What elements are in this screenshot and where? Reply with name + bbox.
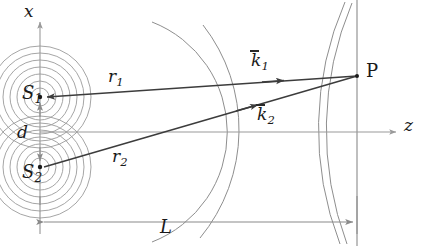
vector-overbar-icon: [256, 104, 265, 106]
ray-r1-label: r1: [108, 68, 124, 88]
vector-overbar-icon: [250, 50, 259, 52]
ray-r1: [47, 76, 357, 97]
x-axis-label: x: [24, 3, 34, 20]
distance-L-label: L: [160, 218, 172, 236]
wavevector-k2-arrow: [236, 105, 258, 111]
wavevector-k2-label: k2: [257, 106, 275, 126]
diagram-canvas: [0, 0, 427, 246]
ray-r2: [44, 76, 357, 167]
wavefront-arcs-screen: [319, 2, 352, 244]
separation-label: d: [17, 124, 28, 141]
ray-r2-label: r2: [112, 148, 128, 168]
wavevector-k1-label: k1: [251, 52, 269, 72]
source-2-label: S2: [22, 163, 42, 184]
interference-diagram: x z S1 S2 d r1 r2 k1 k2 P L: [0, 0, 427, 246]
point-P-marker: [355, 74, 359, 78]
source-1-label: S1: [22, 84, 42, 105]
z-axis-label: z: [404, 117, 413, 134]
point-P-label: P: [366, 62, 378, 80]
